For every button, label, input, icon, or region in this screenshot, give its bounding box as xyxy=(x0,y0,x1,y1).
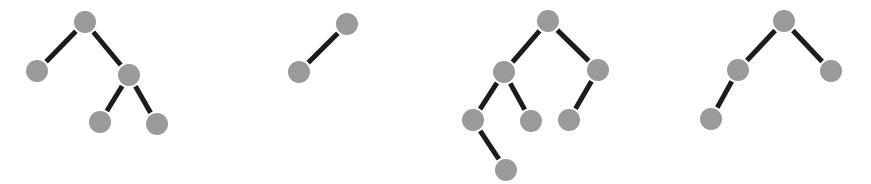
graph-node xyxy=(89,111,111,133)
graph-edge xyxy=(510,83,524,109)
graphs-svg xyxy=(0,0,871,184)
graph-edge xyxy=(576,81,592,109)
graph-edge xyxy=(107,86,122,111)
graph-node xyxy=(493,61,515,83)
graph-edge xyxy=(480,131,499,159)
graph-edge xyxy=(557,30,588,61)
graph-node xyxy=(146,113,168,135)
graph-edge xyxy=(480,83,497,109)
tree-2 xyxy=(288,13,358,83)
graph-node xyxy=(495,159,517,181)
tree-4 xyxy=(700,10,842,130)
graph-node xyxy=(26,60,48,82)
graph-node xyxy=(558,109,580,131)
graph-node xyxy=(118,64,140,86)
tree-1 xyxy=(26,11,168,135)
tree-4-nodes xyxy=(700,10,842,130)
graph-edge xyxy=(717,81,731,107)
graph-node xyxy=(74,11,96,33)
tree-3 xyxy=(462,10,609,181)
graph-edge xyxy=(135,86,150,112)
tree-3-edges xyxy=(480,30,591,159)
figure-canvas xyxy=(0,0,871,184)
tree-1-nodes xyxy=(26,11,168,135)
graph-node xyxy=(727,59,749,81)
graph-edge xyxy=(93,32,120,65)
graph-node xyxy=(336,13,358,35)
graph-node xyxy=(820,60,842,82)
graph-edge xyxy=(46,31,76,61)
graph-node xyxy=(462,109,484,131)
graph-node xyxy=(773,10,795,32)
graph-edge xyxy=(512,31,539,62)
graph-node xyxy=(537,10,559,32)
graph-edge xyxy=(793,30,822,61)
graph-node xyxy=(700,108,722,130)
graph-edge xyxy=(747,30,775,60)
graph-node xyxy=(520,110,542,132)
tree-2-edges xyxy=(308,33,338,63)
graph-node xyxy=(288,61,310,83)
graph-node xyxy=(587,59,609,81)
graph-edge xyxy=(308,33,338,63)
